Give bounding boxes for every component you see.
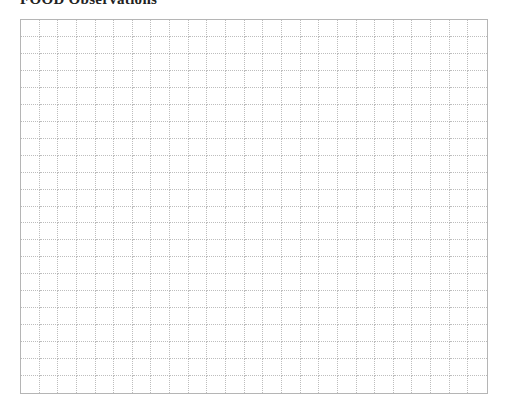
grid-cell xyxy=(394,291,413,308)
grid-cell xyxy=(133,105,152,122)
grid-cell xyxy=(207,257,226,274)
grid-cell xyxy=(245,71,264,88)
grid-cell xyxy=(301,325,320,342)
grid-cell xyxy=(357,359,376,376)
grid-cell xyxy=(151,37,170,54)
grid-cell xyxy=(301,105,320,122)
grid-cell xyxy=(468,325,487,342)
grid-cell xyxy=(96,37,115,54)
grid-cell xyxy=(357,257,376,274)
grid-cell xyxy=(468,274,487,291)
grid-cell xyxy=(245,54,264,71)
grid-cell xyxy=(263,308,282,325)
grid-cell xyxy=(338,274,357,291)
grid-cell xyxy=(394,105,413,122)
grid-cell xyxy=(394,274,413,291)
grid-cell xyxy=(21,139,40,156)
grid-cell xyxy=(114,54,133,71)
grid-cell xyxy=(468,156,487,173)
grid-cell xyxy=(319,190,338,207)
grid-cell xyxy=(170,274,189,291)
grid-cell xyxy=(40,308,59,325)
grid-cell xyxy=(468,223,487,240)
grid-cell xyxy=(450,54,469,71)
grid-cell xyxy=(21,291,40,308)
grid-cell xyxy=(133,342,152,359)
grid-cell xyxy=(40,54,59,71)
grid-cell xyxy=(96,156,115,173)
grid-cell xyxy=(151,173,170,190)
grid-cell xyxy=(301,20,320,37)
grid-cell xyxy=(338,173,357,190)
grid-cell xyxy=(301,291,320,308)
grid-cell xyxy=(170,173,189,190)
grid-cell xyxy=(58,207,77,224)
grid-cell xyxy=(96,359,115,376)
grid-cell xyxy=(77,139,96,156)
grid-cell xyxy=(40,291,59,308)
grid-cell xyxy=(189,376,208,393)
grid-cell xyxy=(151,190,170,207)
grid-cell xyxy=(21,257,40,274)
grid-cell xyxy=(282,274,301,291)
grid-cell xyxy=(357,325,376,342)
grid-cell xyxy=(319,223,338,240)
grid-cell xyxy=(394,20,413,37)
grid-cell xyxy=(133,190,152,207)
grid-cell xyxy=(207,274,226,291)
grid-cell xyxy=(357,207,376,224)
grid-cell xyxy=(412,54,431,71)
grid-cell xyxy=(468,190,487,207)
grid-cell xyxy=(412,173,431,190)
grid-cell xyxy=(301,342,320,359)
grid-cell xyxy=(207,54,226,71)
grid-cell xyxy=(133,156,152,173)
grid-cell xyxy=(189,105,208,122)
grid-cell xyxy=(170,122,189,139)
grid-cell xyxy=(21,274,40,291)
grid-cell xyxy=(319,308,338,325)
grid-cell xyxy=(412,308,431,325)
grid-cell xyxy=(468,207,487,224)
grid-cell xyxy=(282,207,301,224)
grid-cell xyxy=(394,54,413,71)
grid-cell xyxy=(77,71,96,88)
grid-cell xyxy=(40,342,59,359)
grid-cell xyxy=(226,156,245,173)
grid-cell xyxy=(282,156,301,173)
grid-cell xyxy=(263,88,282,105)
grid-cell xyxy=(263,291,282,308)
grid-cell xyxy=(133,376,152,393)
grid-cell xyxy=(394,190,413,207)
grid-cell xyxy=(133,71,152,88)
grid-cell xyxy=(319,54,338,71)
grid-cell xyxy=(375,122,394,139)
grid-cell xyxy=(282,190,301,207)
grid-cell xyxy=(207,190,226,207)
grid-cell xyxy=(226,37,245,54)
grid-cell xyxy=(431,342,450,359)
grid-cell xyxy=(189,122,208,139)
grid-cell xyxy=(58,156,77,173)
grid-cell xyxy=(170,257,189,274)
grid-cell xyxy=(394,139,413,156)
grid-cell xyxy=(40,173,59,190)
grid-cell xyxy=(58,37,77,54)
grid-cell xyxy=(151,257,170,274)
grid-cell xyxy=(263,156,282,173)
grid-cell xyxy=(338,207,357,224)
grid-cell xyxy=(151,54,170,71)
grid-cell xyxy=(319,376,338,393)
grid-cell xyxy=(207,71,226,88)
grid-cell xyxy=(282,291,301,308)
grid-cell xyxy=(133,240,152,257)
grid-cell xyxy=(431,190,450,207)
grid-cell xyxy=(450,291,469,308)
grid-cell xyxy=(450,190,469,207)
grid-cell xyxy=(170,190,189,207)
grid-cell xyxy=(412,274,431,291)
grid-cell xyxy=(450,274,469,291)
grid-cell xyxy=(468,88,487,105)
grid-cell xyxy=(96,308,115,325)
grid-cell xyxy=(58,71,77,88)
